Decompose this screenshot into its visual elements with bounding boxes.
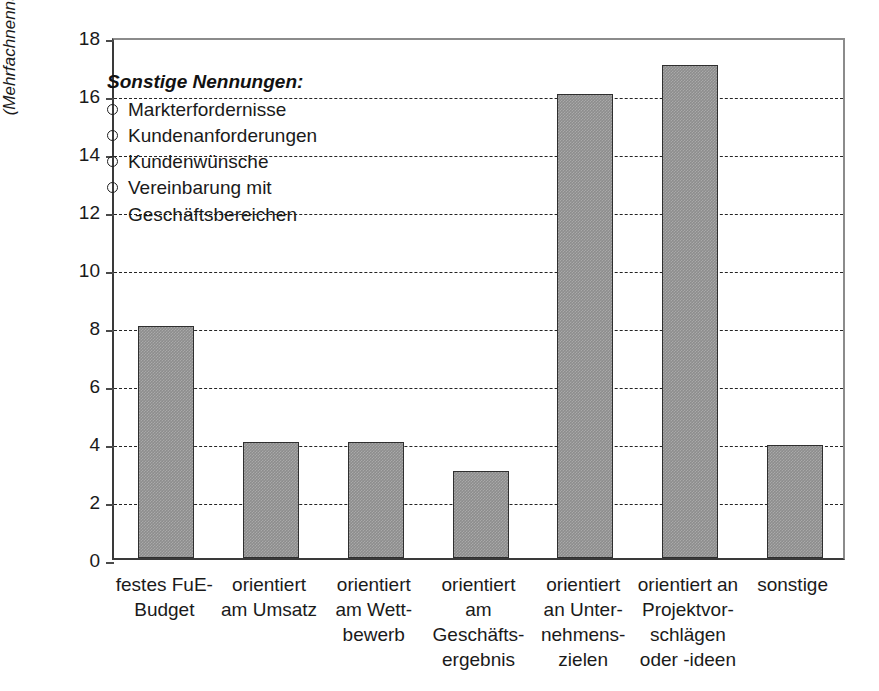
x-axis-category-labels: festes FuE- Budgetorientiert am Umsatzor… (112, 572, 845, 672)
y-axis-tick (106, 330, 114, 332)
legend-item: Geschäftsbereichen (107, 202, 407, 227)
circle-bullet-icon (107, 209, 118, 220)
legend-title: Sonstige Nennungen: (107, 69, 407, 95)
circle-bullet-icon (107, 156, 118, 167)
gridline (114, 330, 843, 331)
x-axis-category-label: orientiert an Unter- nehmens- zielen (531, 572, 636, 672)
y-axis-tick (106, 272, 114, 274)
bar (453, 471, 509, 558)
y-axis-tick-label: 0 (89, 551, 100, 570)
gridline (114, 446, 843, 447)
y-axis-tick-label: 10 (79, 261, 100, 280)
bar (243, 442, 299, 558)
y-axis-tick (106, 388, 114, 390)
y-axis-tick-label: 6 (89, 377, 100, 396)
y-axis-title: Anzahl der Nennungen (Mehrfachnennungen … (0, 0, 21, 150)
legend-item-label: Markterfordernisse (128, 97, 286, 122)
bar (662, 65, 718, 558)
legend-item-label: Geschäftsbereichen (128, 202, 297, 227)
x-axis-category-label: orientiert am Umsatz (217, 572, 322, 622)
y-axis-tick-label: 8 (89, 319, 100, 338)
y-axis-tick (106, 504, 114, 506)
legend-item-label: Vereinbarung mit (128, 175, 272, 200)
legend-item: Kundenanforderungen (107, 123, 407, 148)
x-axis-category-label: festes FuE- Budget (112, 572, 217, 622)
legend: Sonstige Nennungen: MarkterfordernisseKu… (107, 69, 407, 227)
chart-page: Anzahl der Nennungen (Mehrfachnennungen … (0, 0, 879, 691)
legend-item: Markterfordernisse (107, 97, 407, 122)
legend-item-label: Kundenwünsche (128, 149, 269, 174)
circle-bullet-icon (107, 104, 118, 115)
x-axis-category-label: orientiert an Projektvor- schlägen oder … (636, 572, 741, 672)
y-axis-tick (106, 562, 114, 564)
bar (557, 94, 613, 558)
legend-item-label: Kundenanforderungen (128, 123, 317, 148)
y-axis-tick-label: 4 (89, 435, 100, 454)
x-axis-category-label: orientiert am Wett- bewerb (321, 572, 426, 647)
y-axis-tick-label: 16 (79, 87, 100, 106)
gridline (114, 388, 843, 389)
bar (348, 442, 404, 558)
x-axis-category-label: sonstige (740, 572, 845, 597)
y-axis-tick (106, 40, 114, 42)
y-axis-tick-label: 2 (89, 493, 100, 512)
bar (138, 326, 194, 558)
legend-items: MarkterfordernisseKundenanforderungenKun… (107, 97, 407, 227)
x-axis-category-label: orientiert am Geschäfts- ergebnis (426, 572, 531, 672)
y-axis-tick (106, 446, 114, 448)
y-axis-tick-label: 14 (79, 145, 100, 164)
circle-bullet-icon (107, 130, 118, 141)
y-axis-tick-label: 18 (79, 29, 100, 48)
circle-bullet-icon (107, 182, 118, 193)
legend-item: Kundenwünsche (107, 149, 407, 174)
legend-item: Vereinbarung mit (107, 175, 407, 200)
y-axis-tick-label: 12 (79, 203, 100, 222)
bar (767, 445, 823, 558)
gridline (114, 272, 843, 273)
